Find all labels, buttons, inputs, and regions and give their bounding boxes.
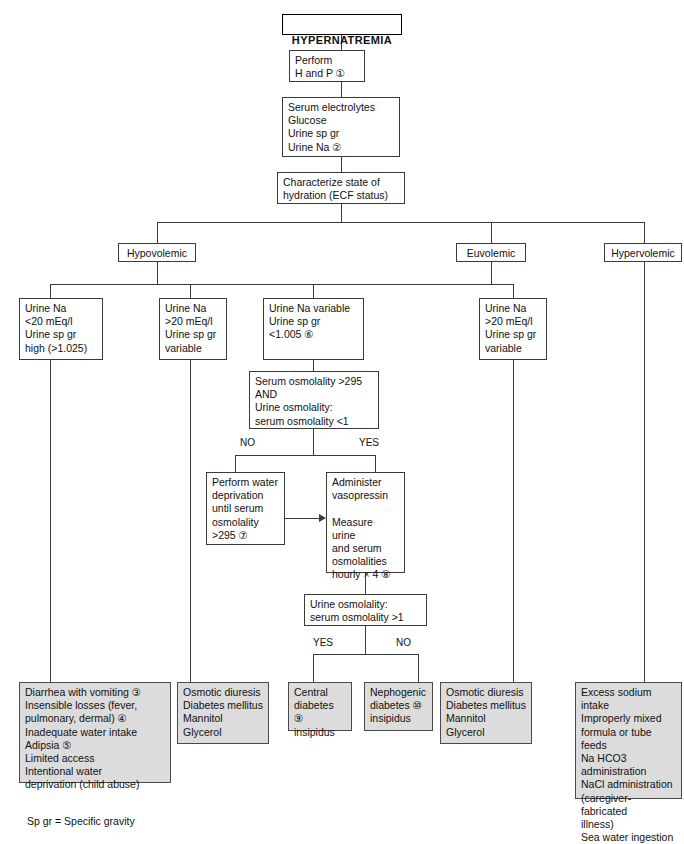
branch-label-osm-no: NO (240, 437, 255, 448)
connector-deprivation-to-vasopressin (285, 518, 319, 519)
node-urine-na-high-euvolemic: Urine Na >20 mEq/l Urine sp gr variable (479, 298, 547, 360)
title-text: HYPERNATREMIA (288, 33, 396, 48)
bus-volemic-status (157, 222, 644, 223)
branch-label-ratio-no: NO (396, 637, 411, 648)
connector-osm-yes-branch (375, 455, 376, 472)
bus-hypovolemic-children (50, 284, 313, 285)
node-characterize-hydration: Characterize state of hydration (ECF sta… (277, 172, 405, 204)
node-nephrogenic-diabetes-insipidus: Nephogenic diabetes ⑩ insipidus (364, 682, 433, 731)
node-serum-osmolality-check: Serum osmolality >295 AND Urine osmolali… (249, 371, 379, 429)
bus-ratio-branches (313, 654, 418, 655)
node-osmotic-diuresis-euvolemic: Osmotic diuresis Diabetes mellitus Manni… (440, 682, 532, 744)
flowchart-canvas: HYPERNATREMIA Perform H and P ① Serum el… (0, 0, 684, 844)
node-urine-na-low: Urine Na <20 mEq/l Urine sp gr high (>1.… (19, 298, 103, 360)
connector-bus-to-hypovolemic (157, 222, 158, 243)
branch-label-osm-yes: YES (359, 437, 379, 448)
node-urine-na-variable: Urine Na variable Urine sp gr <1.005 ⑥ (263, 298, 364, 360)
node-osmotic-diuresis-hypovolemic: Osmotic diuresis Diabetes mellitus Manni… (177, 682, 269, 744)
branch-label-ratio-yes: YES (313, 637, 333, 648)
connector-urine-na-low-to-causes (50, 360, 51, 682)
node-euvolemic: Euvolemic (456, 243, 526, 262)
bus-euvolemic-children (313, 284, 513, 285)
connector-ratio-no-branch (418, 654, 419, 682)
node-urine-serum-osmolality-ratio: Urine osmolality: serum osmolality >1 (304, 594, 427, 626)
connector-urine-na-high-to-osmotic-left (190, 360, 191, 682)
connector-characterize-down (341, 204, 342, 222)
node-central-diabetes-insipidus: Central diabetes ⑨ insipidus (288, 682, 352, 731)
connector-urine-na-high-eu-to-osmotic-right (513, 360, 514, 682)
node-title-hypernatremia: HYPERNATREMIA (282, 14, 402, 35)
node-perform-water-deprivation: Perform water deprivation until serum os… (206, 472, 285, 545)
node-perform-h-and-p: Perform H and P ① (289, 50, 365, 82)
connector-hypovolemic-down (157, 262, 158, 284)
node-hypovolemic-causes: Diarrhea with vomiting ③ Insensible loss… (19, 682, 171, 783)
connector-hypervolemic-to-causes (644, 262, 645, 682)
node-serum-electrolytes: Serum electrolytes Glucose Urine sp gr U… (282, 97, 400, 157)
connector-ratio-down (365, 626, 366, 654)
arrowhead-to-vasopressin (319, 514, 326, 522)
connector-labs-to-characterize (341, 157, 342, 172)
node-hypervolemic: Hypervolemic (604, 243, 682, 262)
connector-hp-to-labs (341, 82, 342, 97)
bus-osm-check-branches (235, 455, 375, 456)
node-excess-sodium-intake: Excess sodium intake Improperly mixed fo… (575, 682, 682, 799)
footnote-sp-gr: Sp gr = Specific gravity (27, 815, 135, 827)
node-administer-vasopressin: Administer vasopressin Measure urine and… (326, 472, 405, 573)
connector-osm-no-branch (235, 455, 236, 472)
connector-ratio-yes-branch (313, 654, 314, 682)
connector-bus-to-hypervolemic (644, 222, 645, 243)
connector-bus-to-euvolemic (491, 222, 492, 243)
connector-hypo-to-urine-na-high (190, 284, 191, 298)
connector-urine-na-variable-to-osm-check (313, 360, 314, 371)
node-hypovolemic: Hypovolemic (118, 243, 196, 262)
connector-eu-to-urine-na-high (513, 284, 514, 298)
connector-osm-check-down (313, 429, 314, 455)
connector-euvolemic-down (491, 262, 492, 284)
connector-hypo-to-urine-na-variable (313, 284, 314, 298)
connector-hypo-to-urine-na-low (50, 284, 51, 298)
node-urine-na-high-hypovolemic: Urine Na >20 mEq/l Urine sp gr variable (159, 298, 227, 360)
